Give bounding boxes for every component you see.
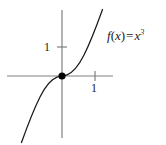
- function-exponent-3: 3: [140, 28, 144, 37]
- cubic-function-plot: [0, 0, 166, 145]
- function-graph-figure: 1 1 f(x)=x3: [0, 0, 166, 145]
- x-axis-tick-label-1: 1: [91, 82, 97, 94]
- function-equation-label: f(x)=x3: [107, 29, 144, 42]
- y-axis-tick-label-1: 1: [44, 41, 50, 53]
- origin-point-marker: [58, 72, 65, 79]
